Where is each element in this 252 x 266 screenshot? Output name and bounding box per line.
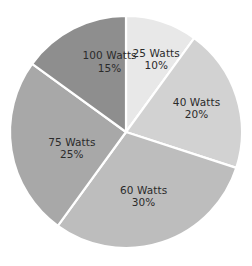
pie-chart-canvas [0,0,252,266]
pie-slice-label-60-watts: 60 Watts30% [120,183,167,208]
slice-label-percent: 25% [48,148,95,161]
pie-slice-label-100-watts: 100 Watts15% [83,49,137,74]
slice-label-percent: 10% [133,59,180,72]
slice-label-name: 75 Watts [48,135,95,148]
slice-label-percent: 20% [173,108,220,121]
slice-label-percent: 30% [120,196,167,209]
slice-label-name: 40 Watts [173,95,220,108]
slice-label-name: 60 Watts [120,183,167,196]
pie-chart-figure: 25 Watts10%40 Watts20%60 Watts30%75 Watt… [0,0,252,266]
slice-label-name: 25 Watts [133,46,180,59]
pie-slice-label-75-watts: 75 Watts25% [48,135,95,160]
pie-slice-label-40-watts: 40 Watts20% [173,95,220,120]
pie-slice-label-25-watts: 25 Watts10% [133,46,180,71]
slice-label-name: 100 Watts [83,49,137,62]
slice-label-percent: 15% [83,61,137,74]
